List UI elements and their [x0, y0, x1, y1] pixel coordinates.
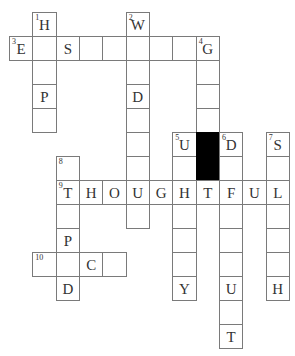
crossword-cell[interactable]: U	[242, 180, 266, 205]
cell-letter: H	[33, 17, 55, 34]
crossword-cell[interactable]	[219, 252, 243, 277]
crossword-cell[interactable]	[126, 156, 150, 181]
cell-letter: P	[33, 89, 55, 106]
crossword-cell[interactable]	[56, 204, 80, 229]
crossword-cell[interactable]: Y	[172, 276, 196, 301]
crossword-cell[interactable]	[102, 252, 126, 277]
crossword-cell[interactable]	[172, 252, 196, 277]
cell-letter: H	[80, 185, 102, 202]
crossword-cell[interactable]: T	[219, 324, 243, 349]
crossword-cell[interactable]	[56, 252, 80, 277]
crossword-cell[interactable]: D	[126, 84, 150, 109]
crossword-cell[interactable]	[172, 228, 196, 253]
crossword-cell[interactable]	[219, 300, 243, 325]
cell-letter: U	[127, 185, 149, 202]
crossword-cell[interactable]	[266, 252, 290, 277]
crossword-cell[interactable]: 8	[56, 156, 80, 181]
crossword-cell[interactable]: P	[56, 228, 80, 253]
crossword-cell[interactable]	[196, 84, 220, 109]
clue-number: 10	[35, 253, 43, 262]
crossword-cell[interactable]: U	[126, 180, 150, 205]
crossword-cell[interactable]	[172, 204, 196, 229]
crossword-cell[interactable]	[126, 36, 150, 61]
cell-letter: H	[267, 281, 289, 298]
cell-letter: D	[220, 137, 242, 154]
crossword-cell[interactable]: T	[196, 180, 220, 205]
clue-number: 8	[59, 157, 63, 166]
cell-letter: U	[173, 137, 195, 154]
cell-letter: U	[220, 281, 242, 298]
crossword-cell[interactable]: 1H	[32, 12, 56, 37]
crossword-cell[interactable]	[266, 204, 290, 229]
blocked-cell	[196, 156, 220, 181]
crossword-cell[interactable]: 7S	[266, 132, 290, 157]
crossword-cell[interactable]: 2W	[126, 12, 150, 37]
crossword-cell[interactable]: 6D	[219, 132, 243, 157]
crossword-cell[interactable]	[32, 36, 56, 61]
blocked-cell	[196, 132, 220, 157]
crossword-cell[interactable]	[266, 156, 290, 181]
cell-letter: D	[127, 89, 149, 106]
crossword-cell[interactable]: P	[32, 84, 56, 109]
crossword-cell[interactable]: F	[219, 180, 243, 205]
crossword-cell[interactable]	[126, 204, 150, 229]
crossword-cell[interactable]	[172, 156, 196, 181]
crossword-cell[interactable]: H	[172, 180, 196, 205]
cell-letter: Y	[173, 281, 195, 298]
cell-letter: L	[267, 185, 289, 202]
crossword-cell[interactable]	[219, 156, 243, 181]
crossword-cell[interactable]: G	[149, 180, 173, 205]
cell-letter: U	[243, 185, 265, 202]
crossword-cell[interactable]: U	[219, 276, 243, 301]
crossword-cell[interactable]: L	[266, 180, 290, 205]
crossword-cell[interactable]	[102, 36, 126, 61]
crossword-cell[interactable]	[196, 108, 220, 133]
crossword-cell[interactable]	[126, 60, 150, 85]
cell-letter: C	[80, 257, 102, 274]
crossword-cell[interactable]	[126, 132, 150, 157]
crossword-cell[interactable]	[196, 60, 220, 85]
cell-letter: P	[57, 233, 79, 250]
crossword-cell[interactable]: 10	[32, 252, 56, 277]
cell-letter: G	[150, 185, 172, 202]
cell-letter: O	[103, 185, 125, 202]
crossword-cell[interactable]	[126, 108, 150, 133]
crossword-cell[interactable]	[79, 36, 103, 61]
crossword-cell[interactable]: O	[102, 180, 126, 205]
crossword-cell[interactable]	[219, 228, 243, 253]
crossword-cell[interactable]	[266, 228, 290, 253]
crossword-cell[interactable]	[32, 60, 56, 85]
crossword-cell[interactable]: 5U	[172, 132, 196, 157]
crossword-cell[interactable]: S	[56, 36, 80, 61]
crossword-grid: 1H2W3ES4GPD5U6D7S89THOUGHTFULP10CDYUHT	[0, 0, 295, 356]
crossword-cell[interactable]	[32, 108, 56, 133]
crossword-cell[interactable]: 9T	[56, 180, 80, 205]
cell-letter: G	[197, 41, 219, 58]
crossword-cell[interactable]: C	[79, 252, 103, 277]
crossword-cell[interactable]: D	[56, 276, 80, 301]
cell-letter: W	[127, 17, 149, 34]
crossword-cell[interactable]: H	[79, 180, 103, 205]
crossword-cell[interactable]	[149, 36, 173, 61]
cell-letter: D	[57, 281, 79, 298]
cell-letter: H	[173, 185, 195, 202]
crossword-cell[interactable]	[219, 204, 243, 229]
cell-letter: T	[220, 329, 242, 346]
crossword-cell[interactable]: 3E	[9, 36, 33, 61]
crossword-cell[interactable]	[172, 36, 196, 61]
cell-letter: T	[197, 185, 219, 202]
cell-letter: E	[10, 41, 32, 58]
cell-letter: S	[57, 41, 79, 58]
cell-letter: F	[220, 185, 242, 202]
cell-letter: S	[267, 137, 289, 154]
crossword-cell[interactable]: H	[266, 276, 290, 301]
cell-letter: T	[57, 185, 79, 202]
crossword-cell[interactable]: 4G	[196, 36, 220, 61]
